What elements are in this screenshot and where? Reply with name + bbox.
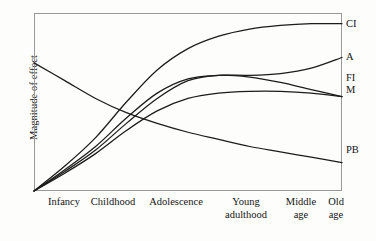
series-label-pb: PB — [346, 145, 359, 156]
series-label-m: M — [346, 85, 355, 96]
x-tick-line1: Childhood — [91, 196, 135, 207]
x-tick-line1: Old — [328, 196, 344, 207]
series-label-a: A — [346, 52, 354, 63]
x-tick-line2: age — [328, 209, 344, 222]
series-label-ci: CI — [346, 19, 357, 30]
x-tick-line1: Young — [232, 196, 260, 207]
x-tick-line2: adulthood — [225, 209, 267, 222]
curves-layer — [34, 13, 342, 191]
series-label-fi: FI — [346, 73, 355, 84]
x-tick-line2: age — [286, 209, 316, 222]
chart-figure: Magnitude of effect CIAFIMPB InfancyChil… — [0, 0, 376, 241]
x-tick-line1: Middle — [286, 196, 316, 207]
x-tick-line1: Adolescence — [149, 196, 203, 207]
x-tick-line1: Infancy — [48, 196, 80, 207]
series-curve-pb — [34, 63, 342, 163]
series-curve-m — [34, 91, 342, 191]
series-curve-ci — [34, 24, 342, 191]
series-curve-a — [34, 58, 342, 192]
